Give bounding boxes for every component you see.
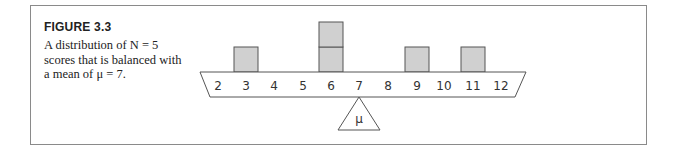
tick-6: 6 — [327, 79, 335, 93]
tick-7: 7 — [355, 79, 363, 93]
tick-11: 11 — [465, 79, 480, 93]
fulcrum-mu-label: μ — [355, 112, 363, 126]
box-score-6-bottom — [319, 47, 343, 72]
balance-diagram: 2 3 4 5 6 7 8 9 10 11 12 μ — [0, 0, 678, 156]
box-score-6-top — [319, 22, 343, 47]
tick-12: 12 — [493, 79, 508, 93]
tick-10: 10 — [436, 79, 451, 93]
tick-8: 8 — [384, 79, 392, 93]
box-score-3 — [234, 47, 258, 72]
score-boxes — [234, 22, 485, 72]
tick-5: 5 — [299, 79, 307, 93]
tick-2: 2 — [214, 79, 222, 93]
box-score-11 — [461, 47, 485, 72]
tick-9: 9 — [413, 79, 421, 93]
box-score-9 — [405, 47, 429, 72]
tick-4: 4 — [270, 79, 278, 93]
tick-3: 3 — [242, 79, 250, 93]
